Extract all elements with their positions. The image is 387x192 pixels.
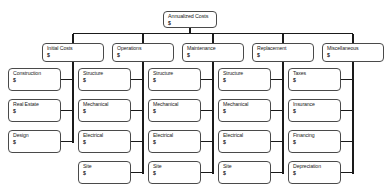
node-leaf-real-estate[interactable]: Real Estate $ — [8, 99, 61, 122]
node-branch-initial-costs[interactable]: Initial Costs $ — [42, 43, 104, 62]
node-branch-replacement[interactable]: Replacement $ — [252, 43, 314, 62]
node-amount: $ — [293, 78, 340, 84]
node-label: Mechanical — [223, 102, 270, 108]
node-label: Construction — [13, 71, 60, 77]
node-leaf-insurance[interactable]: Insurance $ — [288, 99, 341, 122]
node-amount: $ — [83, 171, 130, 177]
node-label: Site — [223, 164, 270, 170]
node-leaf-maintenance-site[interactable]: Site $ — [148, 161, 201, 184]
node-label: Structure — [83, 71, 130, 77]
node-leaf-replacement-electrical[interactable]: Electrical $ — [218, 130, 271, 153]
node-label: Electrical — [223, 133, 270, 139]
node-amount: $ — [83, 78, 130, 84]
node-label: Operations — [117, 46, 173, 52]
node-label: Electrical — [153, 133, 200, 139]
node-leaf-operations-mechanical[interactable]: Mechanical $ — [78, 99, 131, 122]
node-label: Initial Costs — [47, 46, 103, 52]
node-leaf-operations-site[interactable]: Site $ — [78, 161, 131, 184]
node-amount: $ — [13, 78, 60, 84]
node-label: Miscellaneous — [327, 46, 383, 52]
node-label: Taxes — [293, 71, 340, 77]
cost-breakdown-diagram: Annualized Costs $ Initial Costs $ Opera… — [0, 0, 387, 192]
node-amount: $ — [117, 53, 173, 59]
node-amount: $ — [187, 53, 243, 59]
node-leaf-operations-electrical[interactable]: Electrical $ — [78, 130, 131, 153]
node-label: Site — [153, 164, 200, 170]
node-leaf-financing[interactable]: Financing $ — [288, 130, 341, 153]
node-amount: $ — [223, 109, 270, 115]
node-amount: $ — [293, 140, 340, 146]
node-amount: $ — [83, 140, 130, 146]
node-label: Mechanical — [83, 102, 130, 108]
node-amount: $ — [47, 53, 103, 59]
node-amount: $ — [83, 109, 130, 115]
node-amount: $ — [13, 140, 60, 146]
node-label: Mechanical — [153, 102, 200, 108]
node-root-annualized-costs[interactable]: Annualized Costs $ — [163, 11, 217, 28]
node-label: Annualized Costs — [168, 14, 216, 20]
node-branch-operations[interactable]: Operations $ — [112, 43, 174, 62]
node-label: Design — [13, 133, 60, 139]
node-amount: $ — [257, 53, 313, 59]
node-label: Structure — [223, 71, 270, 77]
node-branch-miscellaneous[interactable]: Miscellaneous $ — [322, 43, 384, 62]
node-branch-maintenance[interactable]: Maintenance $ — [182, 43, 244, 62]
node-leaf-replacement-mechanical[interactable]: Mechanical $ — [218, 99, 271, 122]
node-leaf-maintenance-structure[interactable]: Structure $ — [148, 68, 201, 91]
node-leaf-construction[interactable]: Construction $ — [8, 68, 61, 91]
node-amount: $ — [223, 78, 270, 84]
node-leaf-depreciation[interactable]: Depreciation $ — [288, 161, 341, 184]
node-amount: $ — [327, 53, 383, 59]
node-amount: $ — [13, 109, 60, 115]
node-leaf-maintenance-electrical[interactable]: Electrical $ — [148, 130, 201, 153]
node-amount: $ — [293, 171, 340, 177]
node-amount: $ — [153, 78, 200, 84]
node-amount: $ — [153, 109, 200, 115]
node-leaf-replacement-site[interactable]: Site $ — [218, 161, 271, 184]
node-label: Site — [83, 164, 130, 170]
node-leaf-maintenance-mechanical[interactable]: Mechanical $ — [148, 99, 201, 122]
node-amount: $ — [223, 171, 270, 177]
node-amount: $ — [168, 21, 216, 27]
node-label: Real Estate — [13, 102, 60, 108]
node-leaf-design[interactable]: Design $ — [8, 130, 61, 153]
node-amount: $ — [293, 109, 340, 115]
node-leaf-taxes[interactable]: Taxes $ — [288, 68, 341, 91]
node-leaf-operations-structure[interactable]: Structure $ — [78, 68, 131, 91]
node-amount: $ — [153, 140, 200, 146]
node-label: Insurance — [293, 102, 340, 108]
node-label: Replacement — [257, 46, 313, 52]
node-label: Financing — [293, 133, 340, 139]
node-amount: $ — [153, 171, 200, 177]
node-label: Electrical — [83, 133, 130, 139]
node-label: Depreciation — [293, 164, 340, 170]
node-label: Structure — [153, 71, 200, 77]
node-label: Maintenance — [187, 46, 243, 52]
node-amount: $ — [223, 140, 270, 146]
node-leaf-replacement-structure[interactable]: Structure $ — [218, 68, 271, 91]
